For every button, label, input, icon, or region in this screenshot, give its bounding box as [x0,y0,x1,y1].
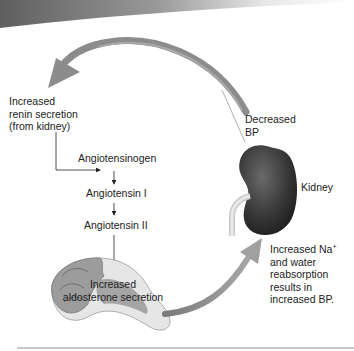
result-line-4: results in [270,281,337,294]
aldosterone-label: Increased aldosterone secretion [60,278,166,303]
angiotensin-i-label: Angiotensin I [86,187,147,200]
decreased-bp-label: Decreased BP [245,113,296,138]
na-superscript: + [332,243,336,250]
feedback-arrow-bottom [165,238,262,314]
result-line-3: reabsorption [270,268,337,281]
renin-label-line-1: Increased [9,95,78,108]
angiotensin-ii-label: Angiotensin II [84,219,148,232]
result-line-2: and water [270,256,337,269]
renin-label-line-3: (from kidney) [9,120,78,133]
result-line-1-text: Increased Na [270,243,332,255]
decreased-bp-line-2: BP [245,126,296,139]
footer-divider [17,347,354,349]
result-line-5: increased BP. [270,293,337,306]
aldosterone-label-line-1: Increased [60,278,166,291]
aldosterone-label-line-2: aldosterone secretion [60,291,166,304]
kidney-illustration [232,145,297,236]
angiotensinogen-label: Angiotensinogen [78,152,156,165]
renin-label: Increased renin secretion (from kidney) [9,95,78,133]
result-line-1: Increased Na+ [270,243,337,256]
renin-label-line-2: renin secretion [9,108,78,121]
result-label: Increased Na+ and water reabsorption res… [270,243,337,306]
decreased-bp-line-1: Decreased [245,113,296,126]
kidney-label: Kidney [301,181,333,194]
